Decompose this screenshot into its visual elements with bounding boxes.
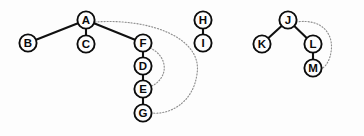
graph-node-d[interactable]: D — [134, 57, 151, 74]
node-label-c: C — [82, 38, 90, 50]
graph-node-j[interactable]: J — [279, 11, 296, 28]
graph-node-g[interactable]: G — [134, 104, 151, 121]
back-edge-layer — [95, 21, 332, 113]
node-label-g: G — [139, 107, 148, 119]
tree-edge-a-b — [35, 23, 78, 40]
node-label-d: D — [139, 60, 147, 72]
graph-node-f[interactable]: F — [134, 34, 151, 51]
graph-node-l[interactable]: L — [304, 35, 321, 52]
graph-figure: ABCFDEGHIJKLM — [0, 0, 364, 136]
node-label-j: J — [285, 14, 291, 26]
tree-edge-j-k — [268, 25, 282, 38]
node-label-b: B — [24, 37, 32, 49]
node-label-e: E — [139, 83, 147, 95]
node-label-k: K — [258, 38, 267, 50]
graph-node-m[interactable]: M — [304, 59, 321, 76]
graph-node-b[interactable]: B — [19, 34, 36, 51]
graph-node-k[interactable]: K — [253, 35, 270, 52]
node-label-l: L — [309, 38, 316, 50]
node-label-a: A — [82, 14, 90, 26]
tree-edge-j-l — [294, 26, 307, 39]
node-label-m: M — [308, 62, 318, 74]
node-label-f: F — [139, 37, 146, 49]
graph-canvas: ABCFDEGHIJKLM — [0, 0, 364, 136]
node-label-h: H — [199, 14, 207, 26]
graph-node-h[interactable]: H — [194, 11, 211, 28]
graph-node-a[interactable]: A — [77, 11, 94, 28]
tree-edge-a-f — [93, 23, 135, 40]
node-label-i: I — [201, 37, 204, 49]
graph-node-c[interactable]: C — [77, 35, 94, 52]
graph-node-i[interactable]: I — [194, 34, 211, 51]
graph-node-e[interactable]: E — [134, 80, 151, 97]
